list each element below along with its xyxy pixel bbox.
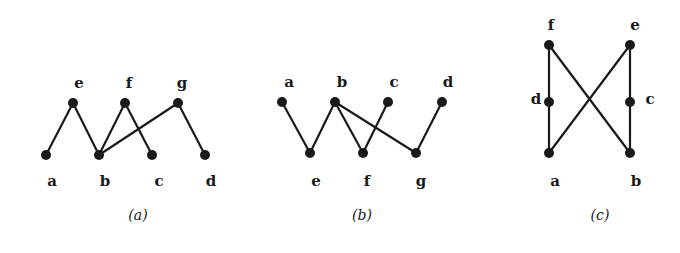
panel-caption-b: (b) — [352, 207, 372, 223]
node-d — [544, 97, 554, 107]
edge-d-g — [416, 102, 442, 153]
node-f — [358, 148, 368, 158]
edge-e-b — [73, 103, 99, 155]
node-label-b: b — [337, 73, 348, 91]
panel-c: fedcab(c) — [531, 16, 655, 223]
node-label-f: f — [126, 74, 134, 92]
node-label-g: g — [416, 172, 427, 190]
node-label-c: c — [645, 90, 654, 108]
node-f — [544, 40, 554, 50]
node-label-e: e — [630, 16, 640, 34]
node-label-c: c — [154, 172, 163, 190]
node-e — [68, 98, 78, 108]
node-f — [120, 98, 130, 108]
panel-caption-c: (c) — [591, 207, 610, 223]
node-label-g: g — [177, 74, 188, 92]
node-label-d: d — [206, 172, 217, 190]
node-label-f: f — [548, 16, 556, 34]
hasse-diagram-figure: efgabcd(a) abcdefg(b) fedcab(c) — [0, 0, 680, 253]
node-b — [330, 97, 340, 107]
node-label-b: b — [100, 172, 111, 190]
node-c — [625, 97, 635, 107]
node-label-d: d — [443, 73, 454, 91]
edge-g-d — [178, 103, 205, 155]
node-g — [173, 98, 183, 108]
node-c — [383, 97, 393, 107]
node-label-c: c — [389, 73, 398, 91]
node-a — [41, 150, 51, 160]
node-d — [200, 150, 210, 160]
node-label-a: a — [284, 73, 294, 91]
node-label-e: e — [74, 74, 84, 92]
node-b — [625, 148, 635, 158]
node-e — [305, 148, 315, 158]
node-label-b: b — [631, 172, 642, 190]
edge-c-f — [363, 102, 388, 153]
node-a — [544, 148, 554, 158]
node-b — [94, 150, 104, 160]
node-g — [411, 148, 421, 158]
node-label-a: a — [550, 172, 560, 190]
edge-a-e — [46, 103, 73, 155]
edge-a-e — [282, 102, 310, 153]
node-label-e: e — [311, 172, 321, 190]
node-a — [277, 97, 287, 107]
node-label-f: f — [364, 172, 372, 190]
edge-e-b — [310, 102, 335, 153]
panel-a: efgabcd(a) — [41, 74, 217, 223]
node-label-a: a — [47, 172, 57, 190]
node-label-d: d — [531, 90, 542, 108]
panel-caption-a: (a) — [128, 207, 147, 223]
node-c — [147, 150, 157, 160]
node-d — [437, 97, 447, 107]
panel-b: abcdefg(b) — [277, 73, 454, 223]
node-e — [625, 40, 635, 50]
